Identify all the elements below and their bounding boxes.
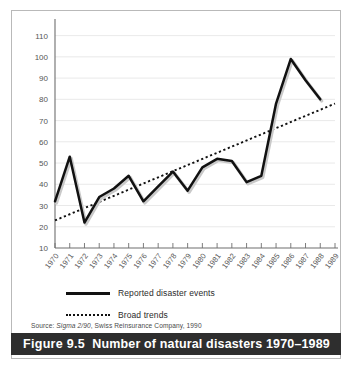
y-tick-label: 100: [35, 53, 49, 62]
natural-disasters-line-chart: 102030405060708090100110 197019711972197…: [12, 11, 340, 281]
x-tick-label: 1988: [308, 252, 326, 271]
y-tick-label: 30: [39, 202, 48, 211]
x-tick-label: 1979: [176, 252, 194, 271]
legend-dotted-line-icon: [66, 310, 110, 320]
x-axis-ticks: [55, 243, 335, 248]
figure-container: 102030405060708090100110 197019711972197…: [11, 10, 341, 359]
figure-caption-title: Number of natural disasters 1970–1989: [92, 337, 330, 351]
series-reported-disaster-events: [55, 59, 320, 223]
y-tick-label: 20: [39, 223, 48, 232]
source-note: Source: Sigma 2/90, Swiss Reinsurance Co…: [31, 322, 202, 329]
figure-caption-text: Figure 9.5 Number of natural disasters 1…: [11, 337, 330, 351]
x-tick-label: 1972: [73, 252, 91, 271]
legend-item-reported-disaster-events: Reported disaster events: [66, 285, 326, 301]
y-tick-label: 110: [35, 32, 48, 41]
figure-caption-bar: Figure 9.5 Number of natural disasters 1…: [11, 333, 341, 355]
x-tick-label: 1975: [117, 252, 135, 271]
legend-solid-line-icon: [66, 288, 110, 298]
source-publication: Sigma 2/90: [56, 322, 90, 329]
x-tick-label: 1985: [264, 252, 282, 271]
chart-plot-area: 102030405060708090100110 197019711972197…: [12, 11, 340, 281]
x-tick-label: 1989: [323, 252, 340, 271]
x-tick-label: 1974: [102, 252, 120, 271]
y-tick-label: 80: [39, 95, 48, 104]
x-tick-label: 1977: [146, 252, 164, 271]
x-tick-label: 1987: [294, 252, 312, 271]
x-tick-label: 1981: [205, 252, 223, 271]
x-tick-label: 1971: [58, 252, 76, 271]
y-tick-label: 50: [39, 159, 48, 168]
x-tick-label: 1978: [161, 252, 179, 271]
x-tick-label: 1973: [87, 252, 105, 271]
source-prefix: Source:: [31, 322, 56, 329]
y-axis-tick-labels: 102030405060708090100110: [35, 32, 49, 253]
source-rest: , Swiss Reinsurance Company, 1990: [91, 322, 202, 329]
legend-label-reported-disaster-events: Reported disaster events: [118, 288, 215, 298]
legend-item-broad-trends: Broad trends: [66, 307, 326, 323]
y-tick-label: 90: [39, 74, 48, 83]
x-tick-label: 1984: [249, 252, 267, 271]
x-tick-label: 1976: [131, 252, 149, 271]
y-tick-label: 10: [39, 244, 48, 253]
x-tick-label: 1970: [43, 252, 61, 271]
y-tick-label: 70: [39, 117, 48, 126]
legend-label-broad-trends: Broad trends: [118, 310, 168, 320]
y-tick-label: 40: [39, 180, 48, 189]
x-tick-label: 1986: [279, 252, 297, 271]
x-tick-label: 1982: [220, 252, 238, 271]
x-tick-label: 1980: [190, 252, 208, 271]
x-axis-tick-labels: 1970197119721973197419751976197719781979…: [43, 252, 340, 271]
y-tick-label: 60: [39, 138, 48, 147]
x-tick-label: 1983: [235, 252, 253, 271]
figure-caption-number: Figure 9.5: [23, 337, 85, 351]
